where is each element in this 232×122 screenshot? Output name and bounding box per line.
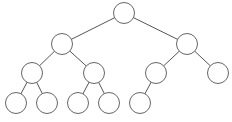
- tree-nodes: [6, 3, 229, 114]
- tree-node: [22, 63, 43, 84]
- tree-node: [208, 63, 229, 84]
- binary-tree-diagram: [0, 0, 232, 122]
- tree-node: [68, 93, 89, 114]
- tree-node: [52, 34, 73, 55]
- tree-node: [99, 93, 120, 114]
- tree-node: [146, 63, 167, 84]
- tree-node: [37, 93, 58, 114]
- tree-node: [130, 93, 151, 114]
- tree-node: [177, 34, 198, 55]
- tree-node: [84, 63, 105, 84]
- tree-edges: [16, 13, 218, 103]
- tree-node: [6, 93, 27, 114]
- tree-node: [114, 3, 135, 24]
